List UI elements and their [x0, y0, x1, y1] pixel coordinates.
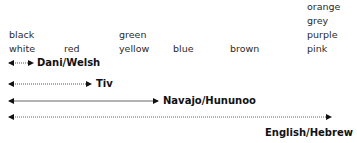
label-english-hebrew: English/Hebrew: [265, 127, 353, 139]
color-term-hierarchy-diagram: black white red green yellow blue brown …: [0, 0, 357, 143]
label-dani-welsh: Dani/Welsh: [37, 57, 100, 69]
arrows-layer: [0, 0, 357, 143]
label-tiv: Tiv: [96, 78, 113, 90]
label-navajo-hununoo: Navajo/Hununoo: [163, 95, 256, 107]
